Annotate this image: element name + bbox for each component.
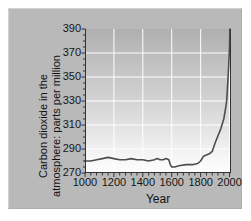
y-axis-tick-label: 330 <box>53 95 81 106</box>
x-axis-tick-labels: 100012001400160018002000 <box>85 176 231 190</box>
y-axis-title: Carbon dioxide in the atmosphere: parts … <box>23 27 53 187</box>
y-axis-title-line-1: Carbon dioxide in the <box>37 46 50 206</box>
gridlines <box>85 29 231 173</box>
y-axis-tick-label: 390 <box>53 23 81 34</box>
y-axis-tick-label: 290 <box>53 143 81 154</box>
figure: Carbon dioxide in the atmosphere: parts … <box>0 0 251 221</box>
plot-area <box>85 29 231 173</box>
x-axis-title: Year <box>85 192 231 206</box>
y-axis-tick-label: 350 <box>53 71 81 82</box>
chart-panel: Carbon dioxide in the atmosphere: parts … <box>8 8 242 209</box>
y-axis-tick-label: 310 <box>53 119 81 130</box>
y-axis-tick-label: 370 <box>53 47 81 58</box>
x-axis-tick-label: 2000 <box>210 176 250 188</box>
plot-svg <box>85 29 231 173</box>
data-line <box>85 29 230 167</box>
data-series-group <box>85 29 230 167</box>
y-axis-tick-labels: 270290310330350370390 <box>53 29 81 173</box>
